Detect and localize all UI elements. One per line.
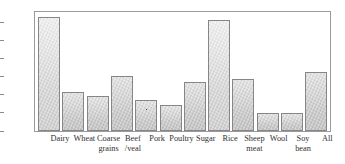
y-axis-baseline-tick-mark [0, 131, 4, 132]
bar [305, 72, 327, 132]
bar [111, 76, 133, 131]
bar [160, 105, 182, 131]
scan-speck [146, 109, 147, 110]
y-axis-tick-mark [0, 58, 4, 59]
x-axis-label: All [304, 134, 345, 144]
bar [87, 96, 109, 131]
x-axis-labels: DairyWheatCoarse grainsBeef /vealPorkPou… [35, 134, 330, 164]
y-axis-tick-mark [0, 112, 4, 113]
bar [184, 82, 206, 131]
y-axis-tick-mark [0, 94, 4, 95]
bars-group [35, 12, 330, 131]
bar [257, 113, 279, 131]
y-axis: 102030405060% [0, 0, 34, 164]
bar [208, 20, 230, 131]
bar [38, 17, 60, 131]
y-axis-tick-mark [0, 76, 4, 77]
bar [62, 92, 84, 131]
y-axis-tick-mark [0, 40, 4, 41]
bar [135, 100, 157, 131]
y-axis-tick-mark [0, 22, 4, 23]
bar [281, 113, 303, 131]
bar [232, 79, 254, 131]
bar-chart: 102030405060% DairyWheatCoarse grainsBee… [0, 0, 345, 164]
